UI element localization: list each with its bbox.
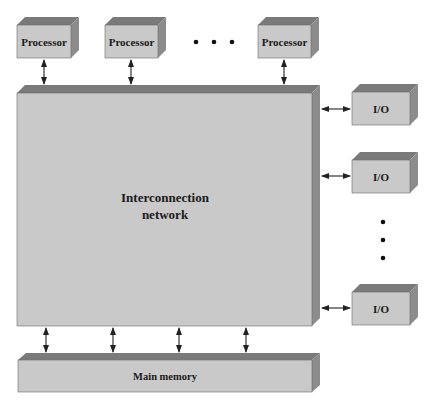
processor-box-2: Processor — [105, 17, 166, 58]
io-box-2: I/O — [352, 152, 418, 193]
multiprocessor-diagram: Processor Processor Processor Interconne… — [0, 0, 431, 403]
network-label-line1: Interconnection — [121, 190, 210, 205]
io-label: I/O — [373, 303, 389, 315]
io-label: I/O — [373, 103, 389, 115]
io-ellipsis-dots — [381, 220, 386, 261]
network-io-arrows — [322, 109, 350, 308]
network-label-line2: network — [142, 207, 189, 222]
processor-box-3: Processor — [258, 17, 319, 58]
processor-label: Processor — [21, 36, 67, 48]
interconnection-network-box: Interconnection network — [17, 85, 320, 326]
io-label: I/O — [373, 171, 389, 183]
io-box-1: I/O — [352, 84, 418, 125]
main-memory-box: Main memory — [18, 353, 320, 392]
processor-label: Processor — [262, 36, 308, 48]
network-memory-arrows — [46, 328, 246, 352]
memory-label: Main memory — [133, 371, 198, 382]
processor-network-arrows — [44, 60, 284, 84]
io-box-3: I/O — [352, 284, 418, 325]
processor-box-1: Processor — [17, 17, 79, 58]
processor-label: Processor — [109, 36, 155, 48]
processor-ellipsis-dots — [194, 40, 235, 45]
